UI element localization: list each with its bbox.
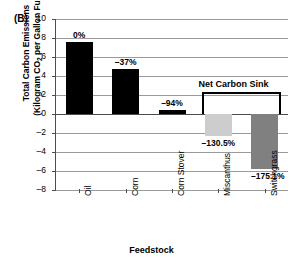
net-carbon-sink-bracket [202, 92, 281, 114]
y-tick-mark [52, 114, 56, 115]
y-tick-label: –4 [20, 146, 46, 156]
y-tick-label: –6 [20, 165, 46, 175]
y-tick-label: 0 [20, 108, 46, 118]
bar-value-label-switchgrass: –175.1% [233, 171, 303, 181]
x-tick-mark [126, 189, 127, 193]
y-tick-label: –2 [20, 127, 46, 137]
x-category-label-corn: Corn [130, 178, 140, 196]
x-axis-title: Feedstock [0, 245, 303, 255]
bar-value-label-oil: 0% [44, 30, 114, 40]
y-tick-mark [52, 133, 56, 134]
y-tick-mark [52, 152, 56, 153]
x-tick-mark [172, 189, 173, 193]
y-axis-title-line2-post: per Gallon Fuel) [32, 0, 42, 57]
y-tick-label: 2 [20, 89, 46, 99]
x-category-label-oil: Oil [83, 186, 93, 196]
bar-miscanthus [205, 114, 232, 136]
y-tick-mark [52, 19, 56, 20]
x-tick-mark [218, 189, 219, 193]
bar-corn [112, 69, 139, 114]
plot-area: 1086420–2–4–6–80%–37%–94%–130.5%–175.1%N… [56, 19, 288, 190]
x-category-label-corn-stover: Corn Stover [176, 151, 186, 196]
x-tick-mark [79, 189, 80, 193]
bar-value-label-corn: –37% [91, 57, 161, 67]
bar-value-label-miscanthus: –130.5% [183, 138, 253, 148]
x-category-label-switchgrass: Switchgrass [269, 150, 279, 196]
bar-oil [66, 42, 93, 114]
y-tick-label: 10 [20, 13, 46, 23]
net-carbon-sink-label: Net Carbon Sink [199, 79, 269, 89]
y-tick-mark [52, 190, 56, 191]
y-tick-mark [52, 57, 56, 58]
x-category-label-miscanthus: Miscanthus [222, 153, 232, 196]
y-tick-label: 6 [20, 51, 46, 61]
gridline [56, 19, 288, 20]
y-tick-mark [52, 171, 56, 172]
y-tick-label: 8 [20, 32, 46, 42]
bar-value-label-corn-stover: –94% [137, 98, 207, 108]
y-tick-mark [52, 95, 56, 96]
figure-panel-b: (B) Total Carbon Emissions (Kilogram CO2… [0, 0, 303, 266]
bar-corn-stover [159, 110, 186, 114]
y-tick-mark [52, 76, 56, 77]
x-tick-mark [265, 189, 266, 193]
y-tick-label: 4 [20, 70, 46, 80]
y-tick-label: –8 [20, 184, 46, 194]
